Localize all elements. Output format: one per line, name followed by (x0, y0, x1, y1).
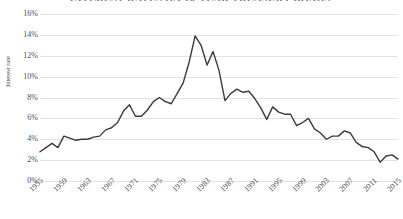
x-tick-label: 2011 (362, 177, 379, 194)
x-tick-label: 1971 (123, 177, 140, 194)
x-tick-label: 2015 (386, 177, 403, 194)
x-tick-label: 1987 (219, 177, 236, 194)
x-tick-label: 1983 (195, 177, 212, 194)
x-tick-label: 1967 (100, 177, 117, 194)
x-tick-label: 1955 (28, 177, 45, 194)
x-tick-label: 1991 (243, 177, 260, 194)
x-tick-label: 2007 (338, 177, 355, 194)
x-tick-label: 1995 (267, 177, 284, 194)
x-tick-label: 2003 (314, 177, 331, 194)
x-tick-label: 1963 (76, 177, 93, 194)
x-tick-label: 1979 (171, 177, 188, 194)
x-tick-label: 1999 (291, 177, 308, 194)
x-tick-label: 1975 (147, 177, 164, 194)
x-tick-label: 1959 (52, 177, 69, 194)
